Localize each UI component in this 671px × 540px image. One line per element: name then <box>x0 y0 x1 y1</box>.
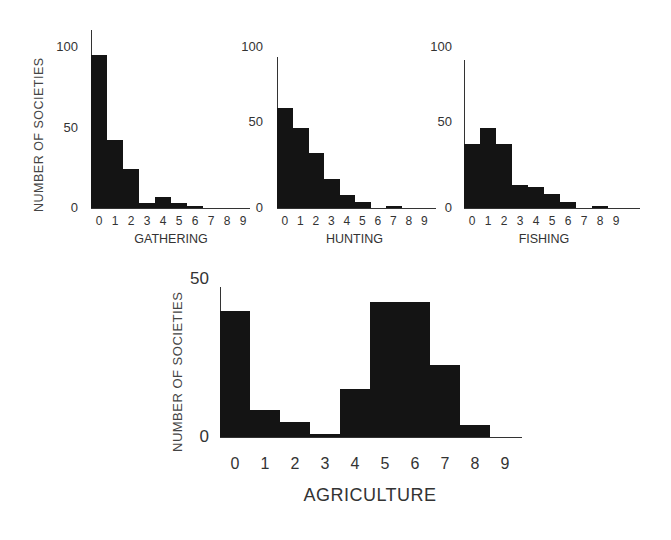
histogram-bar <box>400 302 430 437</box>
x-tick-label: 9 <box>490 455 520 473</box>
x-axis-line <box>220 437 522 438</box>
histogram-bar <box>340 389 370 437</box>
x-tick-label: 3 <box>310 455 340 473</box>
x-tick-label: 2 <box>280 455 310 473</box>
agriculture-histogram: 0123456789050AGRICULTURE <box>0 0 671 540</box>
x-tick-label: 0 <box>220 455 250 473</box>
y-axis-label-bottom: NUMBER OF SOCIETIES <box>170 292 185 452</box>
histogram-bar <box>430 365 460 437</box>
x-tick-label: 5 <box>370 455 400 473</box>
x-tick-label: 8 <box>460 455 490 473</box>
x-axis-title-agriculture: AGRICULTURE <box>220 485 520 506</box>
x-tick-label: 7 <box>430 455 460 473</box>
y-tick-label: 50 <box>169 269 209 289</box>
histogram-bar <box>310 434 340 437</box>
histogram-bar <box>370 302 400 437</box>
histogram-bar <box>280 422 310 437</box>
histogram-bar <box>220 311 250 437</box>
x-tick-label: 4 <box>340 455 370 473</box>
y-axis-label-top: NUMBER OF SOCIETIES <box>32 57 46 212</box>
histogram-bar <box>460 425 490 437</box>
histogram-bar <box>250 410 280 437</box>
x-tick-label: 1 <box>250 455 280 473</box>
x-tick-label: 6 <box>400 455 430 473</box>
